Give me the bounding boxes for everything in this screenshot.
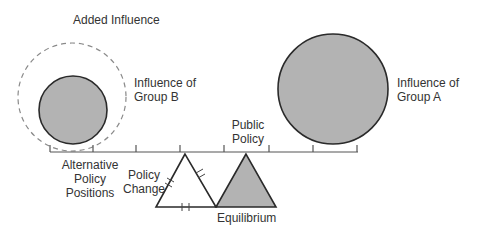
equilibrium-label: Equilibrium	[217, 211, 276, 225]
added-influence-label: Added Influence	[73, 13, 160, 27]
group-a-circle	[278, 34, 388, 144]
public-policy-label-line2: Policy	[228, 132, 268, 146]
public-policy-label-line1: Public	[228, 118, 268, 132]
influence-b-label-line2: Group B	[134, 90, 179, 104]
alternative-positions-label-line2: Policy	[55, 172, 125, 186]
equilibrium-fulcrum	[216, 154, 276, 207]
group-b-circle	[39, 76, 107, 144]
influence-a-label-line2: Group A	[397, 90, 441, 104]
alternative-positions-label-line1: Alternative	[55, 158, 125, 172]
influence-b-label-line1: Influence of	[134, 76, 196, 90]
policy-change-label-line1: Policy	[121, 168, 167, 182]
influence-a-label-line1: Influence of	[397, 76, 459, 90]
policy-beam	[50, 145, 358, 152]
policy-change-label-line2: Change	[121, 182, 167, 196]
diagram-canvas: Added Influence Influence of Group B Inf…	[0, 0, 477, 233]
alternative-positions-label-line3: Positions	[55, 186, 125, 200]
